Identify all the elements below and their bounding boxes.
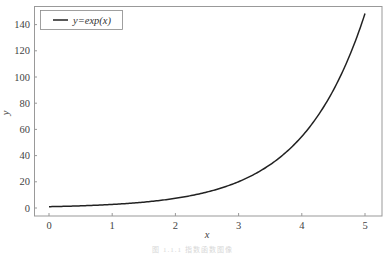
y-axis-label: y (0, 110, 11, 116)
x-tick-label: 0 (46, 220, 51, 231)
x-tick-label: 3 (236, 220, 241, 231)
y-tick-label: 80 (20, 98, 31, 109)
legend: y=exp(x) (41, 11, 123, 30)
y-tick-label: 100 (14, 72, 30, 83)
x-tick-label: 1 (110, 220, 115, 231)
y-tick-label: 140 (14, 19, 30, 30)
y-tick-label: 60 (20, 124, 31, 135)
y-axis-ticks: 020406080100120140 (14, 19, 37, 213)
plot-frame (35, 7, 383, 217)
x-tick-label: 4 (299, 220, 305, 231)
y-tick-label: 120 (14, 45, 30, 56)
y-tick-label: 40 (20, 150, 31, 161)
x-tick-label: 5 (362, 220, 367, 231)
y-tick-label: 0 (25, 203, 30, 214)
y-tick-label: 20 (20, 176, 31, 187)
legend-label: y=exp(x) (72, 15, 111, 27)
figure-caption: 图 1.1.1 指数函数图像 (0, 244, 385, 254)
x-tick-label: 2 (173, 220, 178, 231)
x-axis-label: x (204, 229, 210, 240)
chart: 012345 020406080100120140 x y y=exp(x) (0, 0, 385, 254)
